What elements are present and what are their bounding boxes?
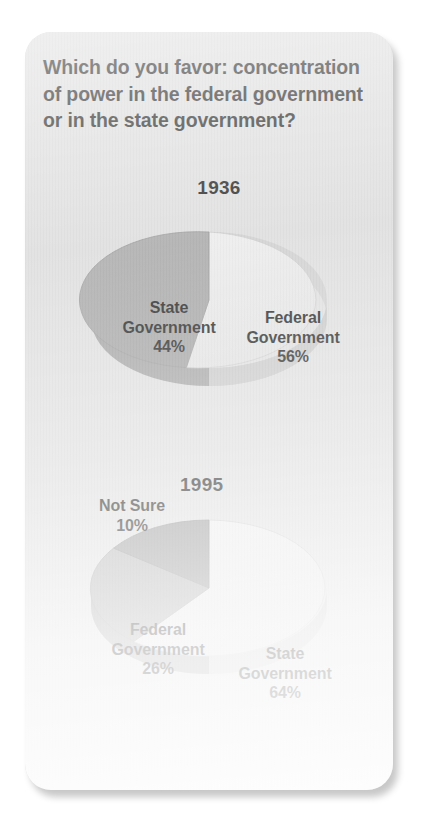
chart-card: Which do you favor: concentration of pow… xyxy=(25,32,393,790)
pie-1995-label-federal: Federal Government 26% xyxy=(93,620,223,679)
pie-1995-label-notsure: Not Sure 10% xyxy=(83,496,181,535)
page-title: Which do you favor: concentration of pow… xyxy=(43,54,373,134)
pie-1936-label-federal: Federal Government 56% xyxy=(230,308,356,367)
chart-title-1936: 1936 xyxy=(159,177,279,199)
pie-1995-label-state: State Government 64% xyxy=(221,644,349,703)
chart-title-1995: 1995 xyxy=(180,474,223,496)
pie-1936-label-state: State Government 44% xyxy=(113,298,225,357)
